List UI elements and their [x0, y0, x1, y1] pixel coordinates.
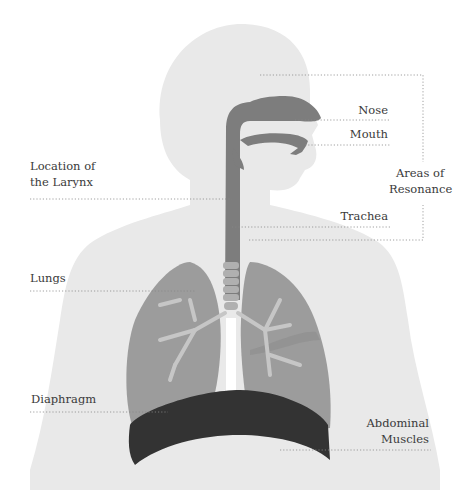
label-resonance-line2: Resonance	[389, 182, 452, 197]
label-resonance-line1: Areas of	[396, 166, 444, 181]
label-abdominal-line1: Abdominal	[367, 416, 429, 431]
label-trachea: Trachea	[340, 209, 388, 224]
label-abdominal-line2: Muscles	[381, 432, 429, 447]
label-mouth: Mouth	[350, 127, 388, 142]
label-diaphragm: Diaphragm	[31, 392, 96, 407]
label-nose: Nose	[358, 103, 388, 118]
label-larynx-line2: the Larynx	[30, 175, 93, 190]
label-larynx-line1: Location of	[30, 159, 95, 174]
label-lungs: Lungs	[30, 271, 66, 286]
